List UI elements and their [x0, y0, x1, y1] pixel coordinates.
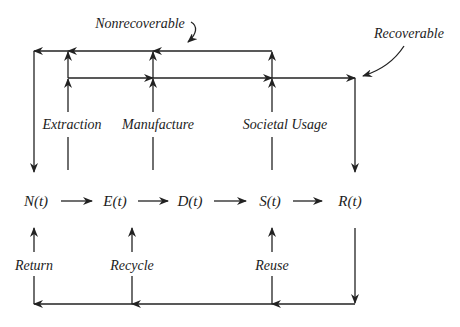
- recoverable-annotation: Recoverable: [373, 26, 444, 41]
- node-e: E(t): [102, 193, 126, 210]
- return-label: Return: [14, 258, 53, 273]
- process-verticals: [68, 52, 272, 170]
- material-flow-diagram: Extraction Manufacture Societal Usage N(…: [0, 0, 460, 327]
- extraction-label: Extraction: [41, 117, 101, 132]
- manufacture-label: Manufacture: [121, 117, 194, 132]
- recycle-label: Recycle: [109, 258, 154, 273]
- reuse-label: Reuse: [254, 258, 288, 273]
- recoverable-pointer-arrow-icon: [363, 46, 404, 76]
- nonrecoverable-annotation: Nonrecoverable: [94, 16, 185, 31]
- nonrecoverable-pointer-arrow-icon: [188, 22, 196, 42]
- node-s: S(t): [259, 193, 281, 210]
- recovery-loop: [34, 228, 355, 304]
- node-n: N(t): [23, 193, 48, 210]
- societal-usage-label: Societal Usage: [243, 117, 327, 132]
- node-r: R(t): [337, 193, 361, 210]
- node-d: D(t): [177, 193, 203, 210]
